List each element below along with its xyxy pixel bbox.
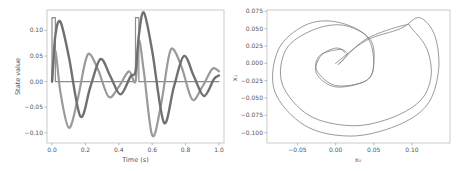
x-tick-label: 0.8 <box>181 146 191 153</box>
x-tick-label: 0.10 <box>405 146 419 153</box>
y-tick-label: 0.000 <box>246 59 263 66</box>
x-tick-label: 0.4 <box>114 146 124 153</box>
y-tick-label: −0.075 <box>241 111 263 118</box>
x-tick-label: 0.05 <box>367 146 381 153</box>
left-x-axis: 0.00.20.40.60.81.0 <box>47 143 224 153</box>
y-tick-label: −0.050 <box>241 94 263 101</box>
x-tick-label: 0.0 <box>47 146 57 153</box>
left-x-axis-label: Time (s) <box>121 156 148 164</box>
y-tick-label: 0.075 <box>246 7 263 14</box>
left-y-axis: −0.10−0.050.000.050.10 <box>25 26 47 135</box>
y-tick-label: −0.05 <box>25 103 44 110</box>
y-tick-label: 0.05 <box>30 52 44 59</box>
y-tick-label: −0.10 <box>25 129 44 136</box>
left-chart: 0.00.20.40.60.81.0 −0.10−0.050.000.050.1… <box>14 10 224 164</box>
right-chart: −0.050.000.050.10 −0.100−0.075−0.050−0.0… <box>231 7 450 164</box>
y-tick-label: −0.100 <box>241 129 263 136</box>
y-tick-label: 0.025 <box>246 42 263 49</box>
x-tick-label: 0.6 <box>147 146 157 153</box>
right-y-axis-label: x₁ <box>231 74 239 81</box>
x-tick-label: −0.05 <box>288 146 307 153</box>
left-y-axis-label: State value <box>14 58 22 95</box>
x-tick-label: 0.00 <box>329 146 343 153</box>
y-tick-label: 0.050 <box>246 25 263 32</box>
figure: 0.00.20.40.60.81.0 −0.10−0.050.000.050.1… <box>0 0 466 171</box>
y-tick-label: 0.00 <box>30 78 44 85</box>
y-tick-label: 0.10 <box>30 26 44 33</box>
right-x-axis-label: x₀ <box>355 156 362 164</box>
x-tick-label: 1.0 <box>214 146 224 153</box>
right-y-axis: −0.100−0.075−0.050−0.0250.0000.0250.0500… <box>241 7 267 135</box>
right-x-axis: −0.050.000.050.10 <box>288 143 418 153</box>
y-tick-label: −0.025 <box>241 77 263 84</box>
x-tick-label: 0.2 <box>81 146 91 153</box>
